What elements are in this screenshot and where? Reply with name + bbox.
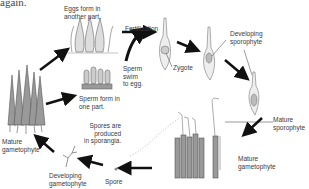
- label-mature-gametophyte-left: Mature gametophyte: [2, 138, 40, 153]
- label-mature-sporophyte: Mature sporophyte: [273, 116, 305, 131]
- developing-sporophyte-illustration: [204, 27, 226, 80]
- mature-sporophyte-illustration: [225, 50, 273, 122]
- label-spore: Spore: [105, 178, 122, 186]
- spore-illustration: [115, 168, 118, 171]
- label-developing-gametophyte: Developing gametophyte: [49, 172, 87, 187]
- antheridia-illustration: [82, 67, 112, 89]
- label-spores-produced: Spores are produced in sporangia.: [84, 122, 121, 145]
- label-mature-gametophyte-right: Mature gametophyte: [238, 155, 276, 170]
- archegonia-illustration: [68, 16, 118, 53]
- zygote-illustration: [159, 18, 172, 70]
- label-zygote: Zygote: [173, 64, 193, 72]
- cycle-arrows: [39, 32, 262, 168]
- developing-gametophyte-illustration: [63, 146, 77, 167]
- label-sperm-swim: Sperm swim to egg.: [123, 65, 143, 88]
- label-sperm-form: Sperm form in one part.: [79, 95, 120, 110]
- label-fertilization: Fertilization: [125, 25, 158, 33]
- label-eggs: Eggs form in another part.: [64, 5, 101, 20]
- mature-gametophyte-right-illustration: [175, 98, 220, 178]
- mature-gametophyte-left-illustration: [8, 65, 45, 134]
- spore-release-trail: [130, 118, 180, 156]
- label-developing-sporophyte: Developing sporophyte: [230, 30, 263, 45]
